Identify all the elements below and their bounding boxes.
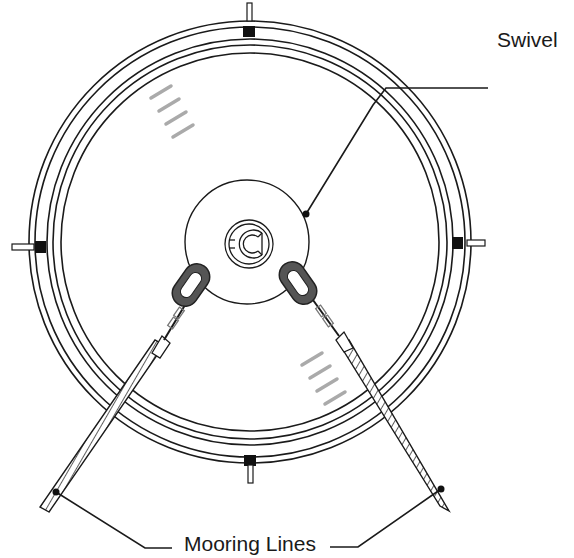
hatch-marks-lower-right [302,353,345,404]
left-mooring-line [40,259,215,512]
buoy-diagram [0,0,574,558]
swivel-label: Swivel [497,28,558,52]
mooring-lines-label: Mooring Lines [184,532,316,556]
right-mooring-line [274,257,449,511]
hatch-marks-upper-left [151,86,193,137]
